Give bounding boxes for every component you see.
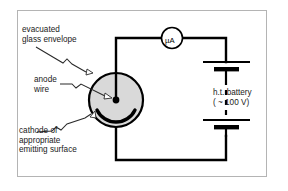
- arrowhead-envelope-icon: [86, 69, 93, 75]
- battery-cell2-short-plate: [214, 125, 239, 129]
- microammeter-label: µA: [165, 36, 174, 45]
- label-cathode-emitting-surface: cathode of appropriate emitting surface: [19, 126, 77, 155]
- battery-cell1-short-plate: [214, 67, 239, 71]
- label-ht-battery: h.t. battery ( ~ 100 V): [213, 88, 252, 107]
- wire-cathode-to-battery-bottom: [116, 127, 226, 160]
- anode-terminal-dot: [113, 97, 120, 104]
- wire-meter-to-battery-top: [182, 38, 226, 62]
- leader-line-envelope: [36, 47, 86, 72]
- label-anode-wire: anode wire: [34, 75, 57, 94]
- label-evacuated-glass-envelope: evacuated glass envelope: [22, 25, 77, 44]
- figure-root: evacuated glass envelope anode wire cath…: [0, 0, 288, 191]
